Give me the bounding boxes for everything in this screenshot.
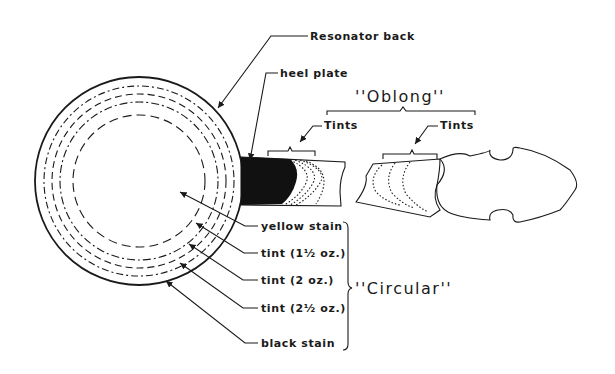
- neck-peghead-section: [356, 147, 577, 222]
- banjo-finish-diagram: ''Oblong'' Tints Tints Resonator back he…: [0, 0, 615, 374]
- resonator-circle: [35, 77, 243, 285]
- resonator-back-label: Resonator back: [310, 30, 415, 43]
- tints-right-brace: [383, 150, 437, 159]
- ring-tint-2: [60, 102, 218, 260]
- tints-left-label: Tints: [324, 119, 358, 132]
- yellow-stain-label: yellow stain: [261, 220, 343, 233]
- ring-tint-1-5: [73, 115, 205, 247]
- tints-left-brace: [268, 147, 315, 156]
- outer-rim: [35, 77, 243, 285]
- tint-2-label: tint (2 oz.): [261, 274, 334, 287]
- oblong-label: ''Oblong'': [355, 87, 445, 106]
- oblong-brace: [327, 107, 475, 115]
- heel-plate-black: [241, 157, 297, 205]
- peghead-outline: [437, 147, 577, 222]
- black-stain-label: black stain: [261, 337, 335, 350]
- neck-heel-section: [241, 157, 345, 206]
- heel-plate-label: heel plate: [280, 67, 348, 80]
- circular-brace: [343, 222, 352, 350]
- tint-1-5-label: tint (1½ oz.): [261, 247, 346, 260]
- tint-2-5-label: tint (2½ oz.): [261, 302, 346, 315]
- tints-right-label: Tints: [440, 119, 474, 132]
- circular-label: ''Circular'': [355, 279, 452, 298]
- ring-tint-2-5: [52, 94, 226, 268]
